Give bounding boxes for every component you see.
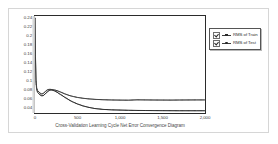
y-tick-label: 0.1 xyxy=(26,79,32,83)
y-tick-label: 0.12 xyxy=(24,70,32,74)
y-tick-label: 0.24 xyxy=(24,16,32,20)
x-tick-label: 1,000 xyxy=(115,116,126,120)
y-tick-label: 0.18 xyxy=(24,43,32,47)
legend-item-label: RMS of Train xyxy=(233,33,257,37)
x-tick-label: 0 xyxy=(34,116,36,120)
x-tick-label: 500 xyxy=(74,116,81,120)
y-tick-label: 0.22 xyxy=(24,25,32,29)
y-tick-label: 0.16 xyxy=(24,52,32,56)
plot-area: 0.040.060.080.10.120.140.160.180.20.220.… xyxy=(34,15,206,114)
y-tick-label: 0.14 xyxy=(24,61,32,65)
series-markers-0 xyxy=(35,18,204,111)
legend-series-swatch-icon xyxy=(222,41,231,46)
legend-checkbox-icon[interactable] xyxy=(213,32,220,39)
series-line-1 xyxy=(35,18,205,100)
series-line-0 xyxy=(35,18,205,110)
legend-item-rms-of-test[interactable]: RMS of Test xyxy=(213,39,257,47)
x-axis-title: Cross-Validation Learning Cycle Net Erro… xyxy=(34,124,206,129)
legend-item-label: RMS of Test xyxy=(233,41,256,45)
series-markers-1 xyxy=(35,18,204,101)
legend-item-rms-of-train[interactable]: RMS of Train xyxy=(213,31,257,39)
x-tick-label: 1,500 xyxy=(157,116,168,120)
y-tick-label: 0.2 xyxy=(26,34,32,38)
chart-plot-svg xyxy=(35,16,205,113)
legend-series-swatch-icon xyxy=(222,33,231,38)
legend-checkbox-icon[interactable] xyxy=(213,40,220,47)
y-tick-label: 0.08 xyxy=(24,88,32,92)
x-tick-label: 2,000 xyxy=(200,116,211,120)
y-tick-label: 0.04 xyxy=(24,106,32,110)
chart-legend[interactable]: RMS of TrainRMS of Test xyxy=(209,28,261,50)
y-tick-label: 0.06 xyxy=(24,97,32,101)
chart-frame: 0.040.060.080.10.120.140.160.180.20.220.… xyxy=(8,8,269,133)
